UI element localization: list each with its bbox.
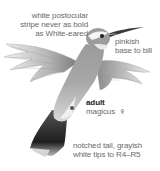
tail-annotation: notched tail, grayish white tips to R4–R… <box>73 141 160 159</box>
annotation-line: white tips to R4–R5 <box>73 150 160 159</box>
eye <box>100 34 104 38</box>
subspecies-label: magicus <box>86 107 115 116</box>
left-wing <box>4 44 78 82</box>
annotation-line: white postocular <box>18 11 88 20</box>
annotation-line: base to bill <box>115 46 160 55</box>
postocular-stripe-annotation: white postocular stripe never as bold as… <box>18 11 88 38</box>
bill-annotation: pinkish base to bill <box>115 37 160 55</box>
annotation-line: as White-eared <box>18 29 88 38</box>
bill <box>108 27 144 37</box>
female-symbol-icon: ♀ <box>118 105 126 117</box>
annotation-line: pinkish <box>115 37 160 46</box>
right-wing <box>96 60 150 90</box>
age-subspecies-label: adult magicus♀ <box>86 98 126 116</box>
annotation-line: stripe never as bold <box>18 20 88 29</box>
annotation-line: notched tail, grayish <box>73 141 160 150</box>
